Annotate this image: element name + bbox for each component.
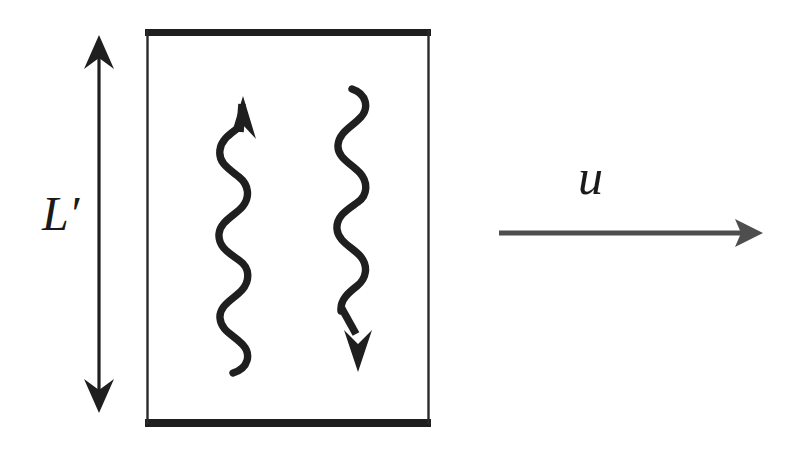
- wavy-arrow-up: [219, 96, 256, 373]
- height-double-arrow: [84, 35, 114, 413]
- figure-canvas: L′ u: [0, 0, 794, 451]
- velocity-label: u: [578, 152, 603, 202]
- wavy-arrow-up-head: [230, 96, 256, 139]
- wavy-arrow-down-tail: [337, 89, 366, 311]
- wavy-arrow-down-head: [344, 330, 372, 372]
- wavy-arrow-down: [337, 89, 372, 372]
- wavy-arrow-down-shaft: [341, 307, 356, 334]
- fluid-layer-box: [145, 30, 431, 424]
- height-label: L′: [42, 190, 79, 238]
- wavy-arrow-up-tail: [219, 128, 248, 373]
- velocity-arrow: [499, 219, 763, 247]
- diagram-svg: [0, 0, 794, 451]
